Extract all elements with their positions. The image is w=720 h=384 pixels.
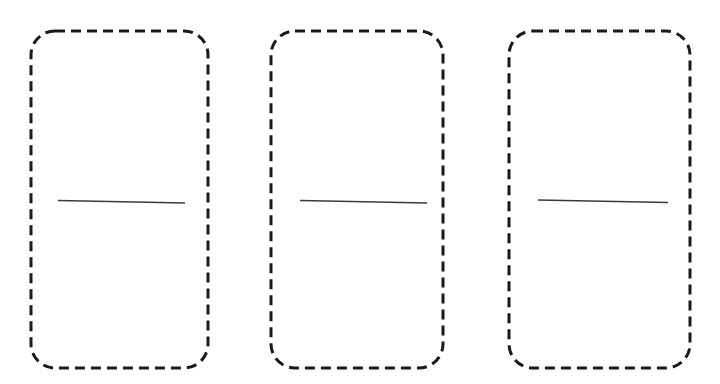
domino-2[interactable] [271,31,443,368]
tiles-layer [31,31,690,368]
domino-2-outline[interactable] [271,31,443,368]
domino-3[interactable] [509,31,690,368]
tiles-svg [0,0,720,384]
domino-1-outline[interactable] [31,31,208,368]
domino-3-outline[interactable] [509,31,690,368]
drawing-canvas [0,0,720,384]
domino-1[interactable] [31,31,208,368]
